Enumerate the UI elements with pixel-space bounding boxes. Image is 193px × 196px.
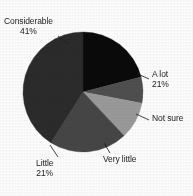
slice-label-not-sure: Not sure (152, 114, 183, 124)
leader-line-little (50, 145, 58, 157)
slice-label-a-lot: A lot 21% (152, 70, 169, 89)
slice-label-considerable-name: Considerable (4, 16, 53, 26)
leader-line-not-sure (136, 114, 149, 120)
slice-label-not-sure-name: Not sure (152, 113, 183, 123)
pie-chart-figure: Considerable 41% A lot 21% Not sure Very… (0, 0, 193, 196)
slice-label-very-little: Very little (103, 155, 136, 165)
pie-slice-group (23, 32, 143, 152)
slice-label-little: Little 21% (36, 159, 53, 178)
slice-label-little-name: Little (36, 158, 53, 168)
slice-label-considerable: Considerable 41% (4, 17, 53, 36)
slice-label-a-lot-value: 21% (152, 80, 169, 90)
slice-label-considerable-value: 41% (4, 27, 53, 37)
slice-label-very-little-name: Very little (103, 154, 136, 164)
slice-label-little-value: 21% (36, 169, 53, 179)
slice-label-a-lot-name: A lot (152, 69, 168, 79)
